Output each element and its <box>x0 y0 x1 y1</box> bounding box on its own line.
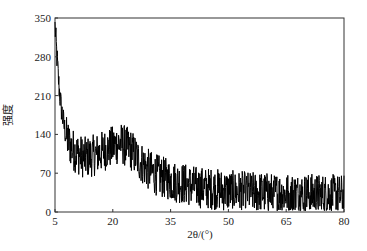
x-tick-label: 65 <box>281 215 293 227</box>
x-tick-label: 50 <box>223 215 235 227</box>
y-tick-label: 350 <box>35 12 52 24</box>
x-tick-label: 5 <box>52 215 58 227</box>
x-tick-label: 20 <box>107 215 119 227</box>
x-tick-label: 35 <box>165 215 177 227</box>
y-axis-label: 强度 <box>1 104 14 126</box>
y-tick-label: 70 <box>40 167 52 179</box>
y-tick-label: 0 <box>46 206 52 218</box>
x-axis-label: 2θ/(°) <box>187 228 213 241</box>
plot-area <box>55 18 344 212</box>
y-tick-label: 280 <box>35 51 52 63</box>
y-tick-label: 210 <box>35 90 52 102</box>
xrd-chart: 52035506580 070140210280350 2θ/(°) 强度 <box>0 0 367 251</box>
y-axis: 070140210280350 <box>35 12 59 218</box>
x-tick-label: 80 <box>339 215 351 227</box>
y-tick-label: 140 <box>35 128 52 140</box>
